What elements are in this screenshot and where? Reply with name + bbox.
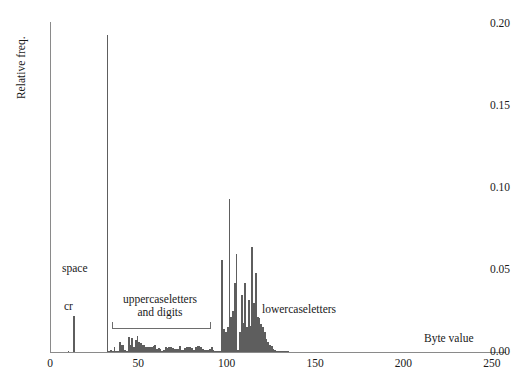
annotation-space: space	[62, 262, 88, 275]
annotation-cr: cr	[64, 300, 73, 313]
x-tick-label: 200	[383, 358, 423, 370]
histogram-bar	[236, 254, 238, 352]
x-tick-label: 250	[472, 358, 512, 370]
histogram-bar	[73, 316, 75, 352]
y-axis-label: Relative freq.	[16, 13, 28, 123]
x-tick-label: 100	[207, 358, 247, 370]
annotation-uppercase-line2: and digits	[137, 306, 182, 318]
histogram-bar	[68, 351, 70, 352]
x-tick-label: 0	[30, 358, 70, 370]
x-axis-line	[50, 352, 506, 353]
uppercase-range-bracket	[112, 322, 211, 329]
x-tick-label: 150	[295, 358, 335, 370]
histogram-bar	[287, 351, 289, 352]
annotation-uppercase-line1: uppercaseletters	[123, 293, 197, 305]
annotation-uppercase-digits: uppercaseletters and digits	[104, 293, 216, 319]
x-tick-label: 50	[118, 358, 158, 370]
annotation-lowercase: lowercaseletters	[262, 303, 336, 316]
